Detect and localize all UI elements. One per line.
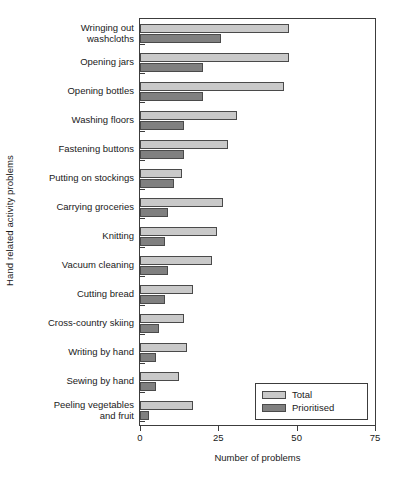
category-label-column: Wringing out washclothsOpening jarsOpeni… xyxy=(18,18,137,426)
legend-swatch-total-icon xyxy=(262,391,286,399)
bar-total xyxy=(140,401,193,411)
bar-prioritised xyxy=(140,411,149,421)
category-label: Opening jars xyxy=(80,56,134,67)
bar-prioritised xyxy=(140,353,156,363)
bar-prioritised xyxy=(140,266,168,276)
x-axis-tick-label: 25 xyxy=(213,432,224,443)
y-axis-tick xyxy=(140,73,145,74)
bar-total xyxy=(140,53,289,63)
x-axis-tick xyxy=(140,426,141,431)
category-label: Wringing out washcloths xyxy=(81,22,134,44)
y-axis-tick xyxy=(140,421,145,422)
legend-item-prioritised: Prioritised xyxy=(262,401,361,414)
bar-prioritised xyxy=(140,150,184,160)
y-axis-tick xyxy=(140,44,145,45)
category-label: Washing floors xyxy=(72,114,134,125)
bar-total xyxy=(140,256,212,266)
category-label: Putting on stockings xyxy=(49,172,134,183)
bar-prioritised xyxy=(140,92,203,102)
bar-total xyxy=(140,140,228,150)
y-axis-tick xyxy=(140,247,145,248)
bar-prioritised xyxy=(140,121,184,131)
bar-prioritised xyxy=(140,237,165,247)
bar-total xyxy=(140,285,193,295)
legend-swatch-prioritised-icon xyxy=(262,404,286,412)
bar-total xyxy=(140,82,284,92)
plot-inner xyxy=(140,19,375,425)
category-label: Cross-country skiing xyxy=(48,317,134,328)
bar-prioritised xyxy=(140,34,221,44)
x-axis-tick-label: 50 xyxy=(291,432,302,443)
bar-total xyxy=(140,372,179,382)
category-label: Fastening buttons xyxy=(58,143,134,154)
x-axis-tick xyxy=(297,426,298,431)
y-axis-tick xyxy=(140,363,145,364)
bar-prioritised xyxy=(140,295,165,305)
legend-label-prioritised: Prioritised xyxy=(292,402,334,413)
bar-chart-figure: Hand related activity problems Wringing … xyxy=(0,0,394,485)
y-axis-title: Hand related activity problems xyxy=(0,0,18,440)
category-label: Knitting xyxy=(102,230,134,241)
bar-total xyxy=(140,314,184,324)
y-axis-tick xyxy=(140,189,145,190)
plot-area xyxy=(139,18,376,426)
bar-total xyxy=(140,111,237,121)
bar-total xyxy=(140,198,223,208)
x-axis-tick xyxy=(218,426,219,431)
legend-item-total: Total xyxy=(262,388,361,401)
bar-total xyxy=(140,343,187,353)
y-axis-tick xyxy=(140,160,145,161)
category-label: Cutting bread xyxy=(77,288,134,299)
category-label: Vacuum cleaning xyxy=(62,259,134,270)
y-axis-tick xyxy=(140,131,145,132)
x-axis-tick-label: 0 xyxy=(137,432,142,443)
y-axis-tick xyxy=(140,392,145,393)
bar-prioritised xyxy=(140,63,203,73)
y-axis-tick xyxy=(140,334,145,335)
bar-total xyxy=(140,24,289,34)
x-axis-tick-label: 75 xyxy=(370,432,381,443)
category-label: Sewing by hand xyxy=(66,375,134,386)
y-axis-tick xyxy=(140,276,145,277)
category-label: Carrying groceries xyxy=(56,201,134,212)
x-axis-tick-labels: 0255075 xyxy=(100,432,390,446)
bar-total xyxy=(140,169,182,179)
category-label: Opening bottles xyxy=(67,85,134,96)
x-axis-tick xyxy=(375,426,376,431)
category-label: Writing by hand xyxy=(68,346,134,357)
x-axis-title: Number of problems xyxy=(139,452,376,463)
y-axis-title-text: Hand related activity problems xyxy=(4,155,15,286)
bar-total xyxy=(140,227,217,237)
category-label: Peeling vegetables and fruit xyxy=(54,399,134,421)
bar-prioritised xyxy=(140,382,156,392)
y-axis-tick xyxy=(140,305,145,306)
legend: Total Prioritised xyxy=(255,383,368,420)
bar-prioritised xyxy=(140,208,168,218)
y-axis-tick xyxy=(140,218,145,219)
bar-prioritised xyxy=(140,179,174,189)
legend-label-total: Total xyxy=(292,389,312,400)
y-axis-tick xyxy=(140,102,145,103)
bar-prioritised xyxy=(140,324,159,334)
